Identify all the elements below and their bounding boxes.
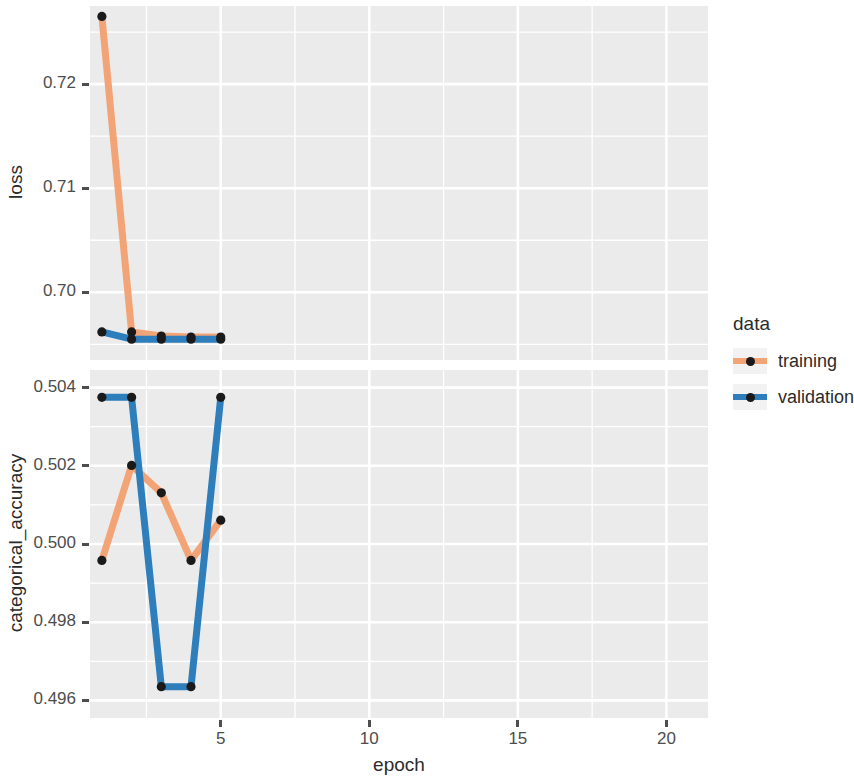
y-tick-label: 0.72 <box>0 73 76 93</box>
panel-categorical-accuracy <box>90 370 708 718</box>
panel-loss <box>90 6 708 360</box>
y-tick-mark <box>82 291 89 294</box>
y-tick-label: 0.504 <box>0 377 76 397</box>
y-tick-mark <box>82 699 89 702</box>
y-tick-mark <box>82 83 89 86</box>
x-axis-title: epoch <box>90 754 708 776</box>
y-tick-label: 0.502 <box>0 455 76 475</box>
x-tick-label: 5 <box>181 729 261 749</box>
x-tick-mark <box>219 720 222 727</box>
x-tick-label: 10 <box>329 729 409 749</box>
y-tick-label: 0.500 <box>0 533 76 553</box>
legend-label-training: training <box>778 351 837 372</box>
y-tick-mark <box>82 543 89 546</box>
y-tick-label: 0.71 <box>0 177 76 197</box>
y-tick-mark <box>82 464 89 467</box>
legend-item-validation[interactable]: validation <box>733 384 854 410</box>
y-tick-label: 0.498 <box>0 611 76 631</box>
x-tick-mark <box>516 720 519 727</box>
x-tick-label: 15 <box>478 729 558 749</box>
y-tick-mark <box>82 621 89 624</box>
y-tick-label: 0.70 <box>0 281 76 301</box>
y-tick-mark <box>82 187 89 190</box>
legend-title: data <box>733 313 770 335</box>
x-tick-mark <box>368 720 371 727</box>
legend-label-validation: validation <box>778 387 854 408</box>
y-tick-label: 0.496 <box>0 689 76 709</box>
legend-item-training[interactable]: training <box>733 348 837 374</box>
x-tick-label: 20 <box>626 729 706 749</box>
x-tick-mark <box>665 720 668 727</box>
legend-swatch-validation <box>733 384 767 410</box>
legend-swatch-training <box>733 348 767 374</box>
y-tick-mark <box>82 386 89 389</box>
